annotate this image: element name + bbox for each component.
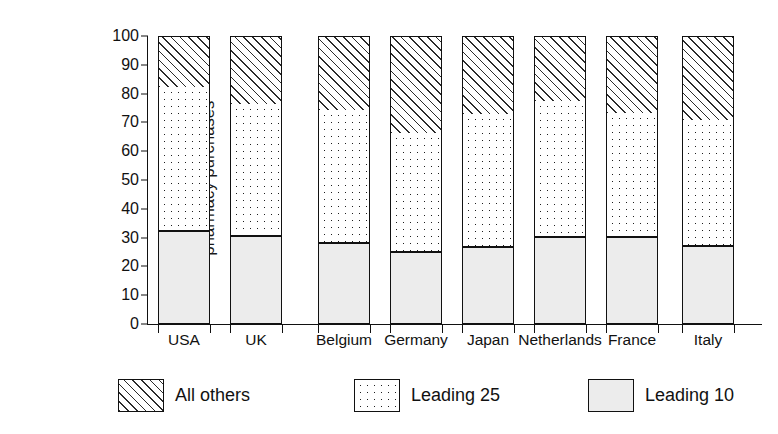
bar-segment-leading-25[interactable] <box>683 120 733 246</box>
bar-group[interactable] <box>318 36 370 324</box>
y-axis-tick-label: 20 <box>121 258 139 274</box>
bar-segment-leading-10[interactable] <box>391 252 441 324</box>
legend-label: Leading 25 <box>411 386 500 404</box>
y-axis-tick-label: 10 <box>121 287 139 303</box>
legend-swatch-leading-25 <box>354 379 400 412</box>
bar-segment-leading-10[interactable] <box>607 237 657 323</box>
y-axis-tick-mark <box>141 93 148 94</box>
y-axis-tick-mark <box>141 151 148 152</box>
x-axis-category-label: Netherlands <box>518 330 602 350</box>
y-axis-tick-label: 90 <box>121 57 139 73</box>
legend-swatch-all-others <box>118 379 164 412</box>
y-axis-tick-label: 0 <box>130 316 139 332</box>
y-axis-tick-label: 40 <box>121 201 139 217</box>
y-axis-tick-mark <box>141 266 148 267</box>
bar-segment-all-others[interactable] <box>319 37 369 110</box>
bar-group[interactable] <box>462 36 514 324</box>
bar-series-container <box>148 36 758 324</box>
bar-segment-all-others[interactable] <box>159 37 209 87</box>
bar-segment-leading-25[interactable] <box>607 113 657 237</box>
y-axis-tick-mark <box>141 180 148 181</box>
bar-segment-leading-10[interactable] <box>535 237 585 323</box>
bar-segment-all-others[interactable] <box>231 37 281 104</box>
bar-segment-leading-25[interactable] <box>231 104 281 236</box>
stacked-bar[interactable] <box>462 36 514 324</box>
y-axis-tick-mark <box>141 36 148 37</box>
bar-segment-all-others[interactable] <box>535 37 585 101</box>
bar-segment-all-others[interactable] <box>391 37 441 133</box>
y-axis-tick-mark <box>141 64 148 65</box>
stacked-bar[interactable] <box>230 36 282 324</box>
bar-segment-leading-25[interactable] <box>535 101 585 237</box>
bar-group[interactable] <box>230 36 282 324</box>
bar-group[interactable] <box>606 36 658 324</box>
x-axis-category-label: Italy <box>694 330 722 350</box>
bar-segment-leading-10[interactable] <box>683 246 733 323</box>
bar-group[interactable] <box>534 36 586 324</box>
legend-label: Leading 10 <box>645 386 734 404</box>
stacked-bar[interactable] <box>318 36 370 324</box>
legend-item[interactable]: Leading 10 <box>588 374 734 416</box>
y-axis-tick-label: 60 <box>121 143 139 159</box>
bar-segment-leading-25[interactable] <box>159 87 209 231</box>
chart-figure: Market share in % of total pharmacy purc… <box>0 0 778 434</box>
y-axis-tick-label: 50 <box>121 172 139 188</box>
bar-segment-all-others[interactable] <box>607 37 657 113</box>
x-axis-category-label: France <box>608 330 656 350</box>
bar-group[interactable] <box>158 36 210 324</box>
y-axis-tick-mark <box>141 122 148 123</box>
x-axis-category-label: USA <box>168 330 200 350</box>
chart-legend: All othersLeading 25Leading 10 <box>118 374 738 420</box>
y-axis-tick-mark <box>141 208 148 209</box>
legend-item[interactable]: Leading 25 <box>354 374 500 416</box>
bar-group[interactable] <box>390 36 442 324</box>
stacked-bar[interactable] <box>682 36 734 324</box>
legend-item[interactable]: All others <box>118 374 250 416</box>
stacked-bar[interactable] <box>606 36 658 324</box>
bar-segment-leading-10[interactable] <box>159 231 209 323</box>
y-axis-tick-label: 70 <box>121 114 139 130</box>
stacked-bar[interactable] <box>390 36 442 324</box>
legend-label: All others <box>175 386 250 404</box>
x-axis-category-label: Germany <box>384 330 448 350</box>
legend-swatch-leading-10 <box>588 379 634 412</box>
y-axis-title: Market share in % of total pharmacy purc… <box>14 28 94 328</box>
y-axis-tick-mark <box>141 237 148 238</box>
bar-group[interactable] <box>682 36 734 324</box>
bar-segment-all-others[interactable] <box>683 37 733 120</box>
y-axis-tick-mark <box>141 324 148 325</box>
bar-segment-leading-10[interactable] <box>231 236 281 323</box>
bar-segment-leading-10[interactable] <box>319 243 369 323</box>
x-axis-category-label: UK <box>245 330 267 350</box>
y-axis-tick-label: 30 <box>121 230 139 246</box>
plot-area: 0102030405060708090100 <box>148 36 758 324</box>
bar-segment-leading-25[interactable] <box>391 133 441 252</box>
x-axis-category-labels: USAUKBelgiumGermanyJapanNetherlandsFranc… <box>148 330 768 354</box>
y-axis-tick-label: 100 <box>112 28 139 44</box>
bar-segment-leading-25[interactable] <box>463 114 513 247</box>
bar-segment-leading-10[interactable] <box>463 247 513 323</box>
x-axis-category-label: Japan <box>467 330 509 350</box>
y-axis-tick-label: 80 <box>121 86 139 102</box>
stacked-bar[interactable] <box>158 36 210 324</box>
y-axis-tick-mark <box>141 295 148 296</box>
stacked-bar[interactable] <box>534 36 586 324</box>
x-axis-category-label: Belgium <box>316 330 372 350</box>
x-axis-line <box>147 324 762 325</box>
bar-segment-leading-25[interactable] <box>319 110 369 243</box>
bar-segment-all-others[interactable] <box>463 37 513 114</box>
